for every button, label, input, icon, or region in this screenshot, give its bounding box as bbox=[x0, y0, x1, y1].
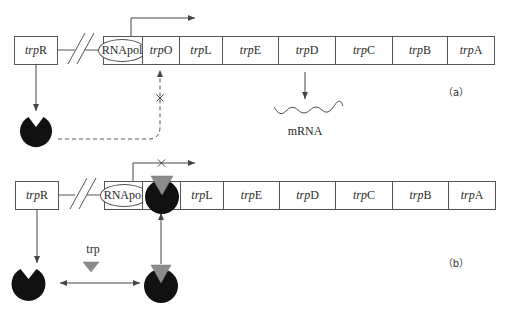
gene-box-trpB: trpB bbox=[392, 36, 448, 65]
gene-suffix: L bbox=[204, 43, 211, 58]
gene-prefix: trp bbox=[150, 43, 164, 58]
gene-suffix: A bbox=[474, 43, 483, 58]
gene-box-trpC: trpC bbox=[335, 36, 393, 65]
tryptophan-label: trp bbox=[86, 242, 99, 256]
gene-suffix: R bbox=[40, 188, 48, 203]
gene-box-trpA: trpA bbox=[448, 181, 496, 210]
gene-suffix: C bbox=[367, 43, 375, 58]
dna-break-mark bbox=[68, 33, 85, 64]
gene-prefix: trp bbox=[296, 43, 310, 58]
gene-box-trpO: trpO bbox=[142, 36, 180, 65]
bound-repressor-on-operator-icon bbox=[140, 172, 184, 216]
rna-polymerase: RNApol bbox=[98, 39, 146, 62]
gene-box-trpL: trpL bbox=[179, 36, 223, 65]
rna-polymerase-label: RNApol bbox=[104, 188, 145, 203]
gene-prefix: trp bbox=[241, 188, 255, 203]
gene-box-trpR: trpR bbox=[14, 36, 58, 65]
panel-label-a: （a） bbox=[443, 84, 469, 99]
gene-box-trpL: trpL bbox=[180, 181, 224, 210]
gene-suffix: E bbox=[254, 43, 261, 58]
dna-break-mark bbox=[70, 178, 87, 209]
mrna-wave-icon bbox=[274, 101, 343, 114]
gene-box-trpE: trpE bbox=[222, 36, 279, 65]
gene-suffix: R bbox=[39, 43, 47, 58]
gene-prefix: trp bbox=[296, 188, 310, 203]
panel-label-b: （b） bbox=[443, 255, 469, 270]
repressor-icon bbox=[12, 269, 46, 301]
gene-prefix: trp bbox=[461, 188, 475, 203]
gene-prefix: trp bbox=[460, 43, 474, 58]
gene-suffix: D bbox=[310, 43, 319, 58]
gene-box-trpD: trpD bbox=[278, 36, 336, 65]
tryptophan-icon bbox=[83, 262, 99, 272]
gene-suffix: B bbox=[424, 188, 432, 203]
gene-box-trpB: trpB bbox=[392, 181, 449, 210]
gene-suffix: A bbox=[475, 188, 484, 203]
gene-suffix: O bbox=[164, 43, 173, 58]
mrna-label: mRNA bbox=[288, 124, 323, 138]
gene-prefix: trp bbox=[190, 43, 204, 58]
gene-box-trpA: trpA bbox=[447, 36, 495, 65]
gene-prefix: trp bbox=[25, 43, 39, 58]
gene-box-trpE: trpE bbox=[223, 181, 280, 210]
repressor-trp-complex-icon bbox=[144, 265, 178, 303]
transcription-arrow bbox=[131, 18, 195, 36]
binding-path-dashed bbox=[58, 70, 160, 139]
repressor-icon bbox=[20, 117, 52, 147]
rna-polymerase-label: RNApol bbox=[102, 43, 143, 58]
gene-box-trpD: trpD bbox=[279, 181, 336, 210]
gene-prefix: trp bbox=[353, 43, 367, 58]
gene-box-trpR: trpR bbox=[15, 181, 59, 210]
gene-suffix: B bbox=[423, 43, 431, 58]
dna-break-mark bbox=[77, 33, 94, 64]
gene-box-trpC: trpC bbox=[335, 181, 393, 210]
gene-prefix: trp bbox=[353, 188, 367, 203]
gene-prefix: trp bbox=[409, 188, 423, 203]
gene-prefix: trp bbox=[240, 43, 254, 58]
gene-suffix: D bbox=[310, 188, 319, 203]
gene-suffix: E bbox=[255, 188, 262, 203]
gene-prefix: trp bbox=[409, 43, 423, 58]
gene-prefix: trp bbox=[26, 188, 40, 203]
gene-suffix: C bbox=[367, 188, 375, 203]
gene-suffix: L bbox=[205, 188, 212, 203]
dna-break-mark bbox=[79, 178, 96, 209]
gene-prefix: trp bbox=[191, 188, 205, 203]
